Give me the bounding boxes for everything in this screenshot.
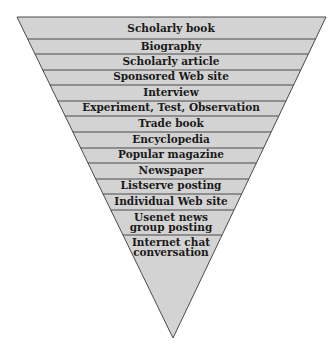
band-label-trade-book: Trade book — [138, 117, 204, 129]
band-label-sponsored-web-site: Sponsored Web site — [113, 70, 229, 82]
band-label-scholarly-book: Scholarly book — [127, 22, 215, 34]
band-label-interview: Interview — [143, 86, 199, 98]
band-label-scholarly-article: Scholarly article — [123, 55, 220, 67]
band-label-newspaper: Newspaper — [139, 164, 204, 176]
band-label-encyclopedia: Encyclopedia — [132, 133, 210, 145]
band-label-biography: Biography — [141, 40, 203, 52]
band-label-experiment-test-observation: Experiment, Test, Observation — [82, 101, 260, 113]
band-label-usenet-news-line2: group posting — [130, 221, 213, 233]
band-label-individual-web-site: Individual Web site — [114, 195, 228, 207]
band-label-listserve-posting: Listserve posting — [121, 179, 222, 191]
inverted-pyramid-diagram: Scholarly book Biography Scholarly artic… — [0, 0, 335, 355]
band-label-popular-magazine: Popular magazine — [118, 148, 224, 160]
band-label-internet-chat-line2: conversation — [133, 246, 209, 258]
